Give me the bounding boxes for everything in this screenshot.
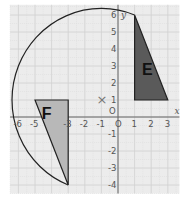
y-tick-label: -3 — [108, 163, 116, 173]
shape-label-e: E — [142, 61, 153, 78]
origin-label: O — [109, 106, 116, 116]
y-tick-label: 5 — [111, 27, 116, 37]
x-tick-label: 2 — [148, 119, 153, 129]
y-tick-label: 3 — [111, 61, 116, 71]
x-tick-label: -5 — [30, 119, 38, 129]
x-tick-label: 3 — [165, 119, 170, 129]
x-tick-label: -6 — [13, 119, 21, 129]
y-tick-label: -1 — [108, 129, 116, 139]
rotation-diagram: EF×-6-5-3-2-1O123654321O-1-2-3-4xy — [0, 0, 185, 198]
y-tick-label: -2 — [108, 146, 116, 156]
x-tick-label: O — [115, 119, 122, 129]
y-tick-label: 6 — [111, 10, 116, 20]
shape-label-f: F — [42, 105, 52, 122]
y-tick-label: 4 — [111, 44, 116, 54]
coordinate-grid: EF×-6-5-3-2-1O123654321O-1-2-3-4xy — [0, 0, 185, 198]
x-tick-label: -2 — [80, 119, 88, 129]
center-of-rotation-icon: × — [96, 92, 107, 107]
y-tick-label: 2 — [111, 78, 116, 88]
y-axis-label: y — [120, 10, 127, 20]
y-tick-label: 1 — [111, 95, 116, 105]
x-axis-label: x — [174, 106, 179, 116]
x-tick-label: 1 — [132, 119, 137, 129]
x-tick-label: -3 — [63, 119, 71, 129]
x-tick-label: -1 — [96, 119, 104, 129]
y-tick-label: -4 — [108, 180, 116, 190]
